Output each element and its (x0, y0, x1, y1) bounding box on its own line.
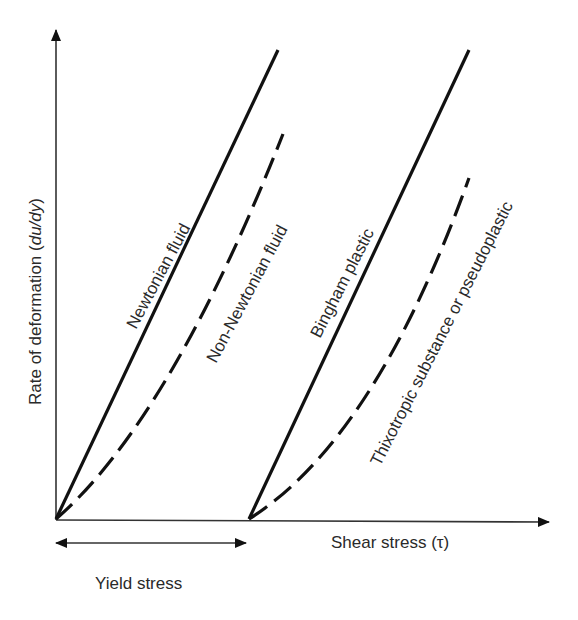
bingham-plastic-line (249, 50, 469, 519)
x-axis (56, 520, 549, 522)
diagram-canvas: Rate of deformation (du/dy) Shear stress… (0, 0, 578, 620)
yield-stress-label: Yield stress (95, 574, 182, 593)
thixotropic-label: Thixotropic substance or pseudoplastic (367, 198, 518, 469)
x-axis-label: Shear stress (τ) (331, 533, 449, 552)
non-newtonian-fluid-curve (56, 134, 283, 519)
non-newtonian-fluid-label: Non-Newtonian fluid (203, 222, 292, 366)
newtonian-fluid-label: Newtonian fluid (123, 220, 194, 332)
y-axis-label: Rate of deformation (du/dy) (26, 198, 45, 405)
rheology-diagram: Rate of deformation (du/dy) Shear stress… (0, 0, 578, 620)
